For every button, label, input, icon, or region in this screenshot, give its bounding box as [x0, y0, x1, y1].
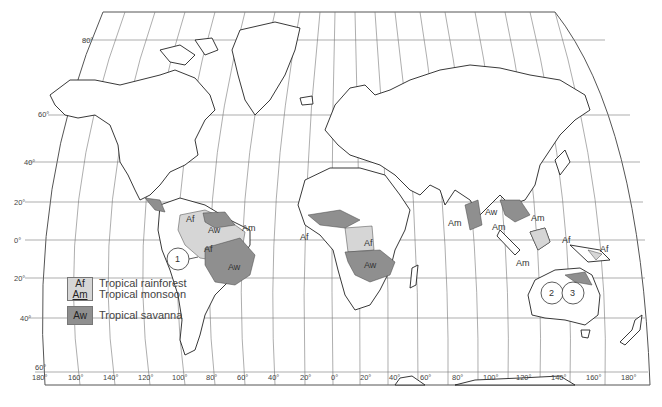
north-america — [50, 70, 215, 200]
svg-text:180°: 180° — [32, 373, 48, 382]
legend-label-savanna: Tropical savanna — [99, 310, 182, 321]
svg-text:20°: 20° — [360, 373, 371, 382]
svg-text:0°: 0° — [14, 236, 21, 245]
svg-text:40°: 40° — [389, 373, 400, 382]
svg-text:Aw: Aw — [228, 262, 241, 272]
svg-text:Am: Am — [531, 213, 545, 223]
svg-text:2: 2 — [549, 288, 554, 298]
svg-text:Am: Am — [516, 258, 530, 268]
svg-text:120°: 120° — [516, 373, 532, 382]
continents — [50, 22, 642, 385]
svg-text:Af: Af — [300, 232, 309, 242]
legend-item-savanna: Aw Tropical savanna — [67, 306, 187, 325]
svg-text:160°: 160° — [586, 373, 602, 382]
svg-text:40°: 40° — [24, 158, 35, 167]
svg-text:1: 1 — [175, 254, 180, 264]
svg-text:40°: 40° — [20, 314, 31, 323]
legend-swatch-light: Af Am — [67, 277, 93, 301]
svg-text:20°: 20° — [300, 373, 311, 382]
svg-text:3: 3 — [570, 288, 575, 298]
svg-text:80°: 80° — [206, 373, 217, 382]
svg-text:100°: 100° — [172, 373, 188, 382]
legend-item-rainforest-monsoon: Af Am Tropical rainforest Tropical monso… — [67, 277, 187, 301]
svg-text:40°: 40° — [268, 373, 279, 382]
svg-text:60°: 60° — [420, 373, 431, 382]
legend-label-monsoon: Tropical monsoon — [99, 289, 187, 300]
svg-text:Aw: Aw — [208, 225, 221, 235]
svg-text:Af: Af — [562, 235, 571, 245]
svg-text:20°: 20° — [14, 274, 25, 283]
svg-text:Af: Af — [204, 244, 213, 254]
svg-text:Aw: Aw — [485, 207, 498, 217]
map-legend: Af Am Tropical rainforest Tropical monso… — [67, 277, 187, 327]
svg-text:100°: 100° — [483, 373, 499, 382]
svg-text:Af: Af — [186, 214, 195, 224]
svg-text:140°: 140° — [551, 373, 567, 382]
svg-text:Am: Am — [492, 222, 506, 232]
svg-text:Am: Am — [448, 218, 462, 228]
svg-text:Af: Af — [600, 244, 609, 254]
svg-text:60°: 60° — [237, 373, 248, 382]
svg-text:20°: 20° — [14, 198, 25, 207]
svg-text:Am: Am — [242, 223, 256, 233]
svg-text:Af: Af — [364, 238, 373, 248]
svg-text:180°: 180° — [621, 373, 637, 382]
svg-text:60°: 60° — [35, 363, 46, 372]
svg-text:0°: 0° — [331, 373, 338, 382]
svg-text:60°: 60° — [38, 110, 49, 119]
svg-text:120°: 120° — [138, 373, 154, 382]
legend-swatch-dark: Aw — [67, 306, 93, 325]
svg-text:Aw: Aw — [364, 260, 377, 270]
svg-text:160°: 160° — [68, 373, 84, 382]
greenland — [232, 22, 300, 115]
svg-text:80°: 80° — [82, 36, 93, 45]
svg-text:80°: 80° — [452, 373, 463, 382]
svg-text:140°: 140° — [103, 373, 119, 382]
world-climate-map: Af Aw Am Af Aw Af Af Aw Am Aw Am Am Am A… — [0, 0, 662, 407]
